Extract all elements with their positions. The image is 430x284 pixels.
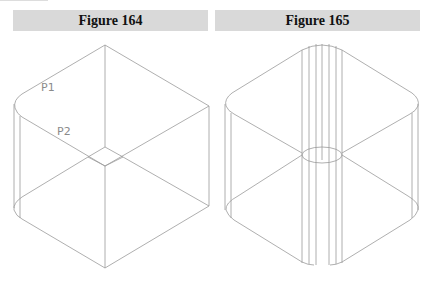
figure-165-drawing: [225, 44, 418, 265]
figure-164-drawing: P1 P2: [14, 45, 209, 268]
label-p1: P1: [41, 81, 55, 94]
label-p2: P2: [57, 125, 71, 138]
figure-drawings: P1 P2: [0, 0, 430, 284]
